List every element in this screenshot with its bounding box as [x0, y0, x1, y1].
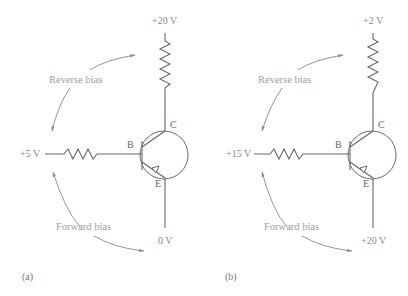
- collector-supply-label-b: +2 V: [363, 15, 384, 26]
- base-pin-label-a: B: [127, 139, 134, 150]
- base-pin-label-b: B: [335, 139, 342, 150]
- collector-supply-label-a: +20 V: [152, 15, 178, 26]
- base-supply-label-b: +15 V: [226, 148, 252, 159]
- reverse-bias-arrow-lower-b: [262, 88, 282, 131]
- reverse-bias-label-a: Reverse bias: [49, 74, 102, 85]
- emitter-arrow-icon-b: [360, 166, 367, 173]
- bias-diagram: +20 V B C E +5 V 0 V Reverse bias Forwar…: [0, 0, 408, 296]
- forward-bias-arrow-upper-b: [262, 172, 287, 227]
- panel-a: +20 V B C E +5 V 0 V Reverse bias Forwar…: [20, 15, 188, 283]
- reverse-bias-arrow-upper-a: [90, 55, 135, 70]
- caption-a: (a): [22, 271, 33, 283]
- transistor-envelope-b: [348, 131, 396, 179]
- collector-pin-label-b: C: [378, 119, 385, 130]
- forward-bias-arrow-lower-a: [94, 236, 144, 251]
- emitter-supply-label-b: +20 V: [361, 235, 387, 246]
- base-resistor-b: [254, 149, 350, 159]
- transistor-envelope-a: [140, 131, 188, 179]
- emitter-arrow-icon-a: [152, 166, 159, 173]
- emitter-pin-label-a: E: [155, 178, 161, 189]
- reverse-bias-arrow-upper-b: [298, 55, 343, 70]
- emitter-pin-label-b: E: [363, 178, 369, 189]
- forward-bias-label-a: Forward bias: [56, 221, 111, 232]
- reverse-bias-label-b: Reverse bias: [258, 74, 311, 85]
- forward-bias-arrow-upper-a: [53, 172, 80, 227]
- forward-bias-label-b: Forward bias: [264, 221, 319, 232]
- base-resistor-a: [45, 149, 142, 159]
- collector-resistor-b: [368, 33, 378, 131]
- collector-resistor-a: [160, 33, 170, 131]
- base-supply-label-a: +5 V: [20, 148, 41, 159]
- reverse-bias-arrow-lower-a: [52, 88, 70, 131]
- emitter-supply-label-a: 0 V: [158, 235, 173, 246]
- panel-b: +2 V B C E +15 V +20 V Reverse bias Forw…: [225, 15, 396, 283]
- forward-bias-arrow-lower-b: [302, 236, 352, 251]
- collector-pin-label-a: C: [170, 119, 177, 130]
- caption-b: (b): [225, 271, 237, 283]
